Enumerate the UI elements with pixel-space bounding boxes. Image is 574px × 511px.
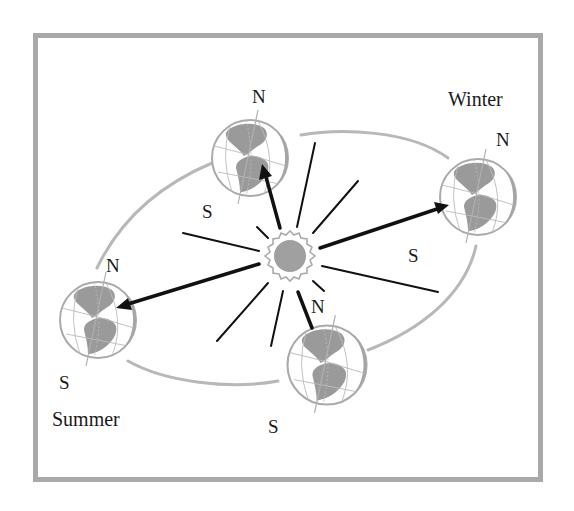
globe-left-south-label: S: [59, 372, 70, 393]
globe-top-south-label: S: [202, 201, 213, 222]
winter-label: Winter: [448, 88, 503, 110]
globe-top: [212, 110, 289, 204]
globe-right-south-label: S: [408, 245, 419, 266]
globe-right: [440, 149, 517, 243]
summer-label: Summer: [52, 408, 120, 430]
globe-right-north-label: N: [496, 129, 510, 150]
globe-left-north-label: N: [106, 255, 120, 276]
globe-bottom-north-label: N: [311, 296, 325, 317]
globe-top-north-label: N: [252, 86, 266, 107]
orbit-diagram: N S Winter N S N S Summer N S: [0, 0, 574, 511]
globe-left: [60, 272, 137, 366]
globe-bottom: [287, 315, 367, 413]
sun-icon: [265, 231, 315, 281]
globe-bottom-south-label: S: [268, 416, 279, 437]
